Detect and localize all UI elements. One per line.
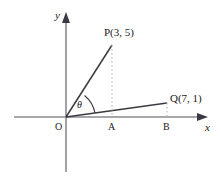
x-axis-arrowhead bbox=[197, 113, 208, 121]
segment-op bbox=[66, 45, 112, 117]
point-label-p: P(3, 5) bbox=[104, 27, 134, 38]
y-axis-label: y bbox=[55, 10, 60, 21]
x-axis bbox=[14, 113, 208, 121]
origin-label: O bbox=[55, 122, 62, 132]
angle-arc-theta bbox=[85, 96, 96, 114]
point-label-q: Q(7, 1) bbox=[170, 93, 202, 104]
y-axis-arrowhead bbox=[62, 12, 70, 23]
coordinate-diagram: y x O P(3, 5) Q(7, 1) A B θ bbox=[0, 0, 221, 177]
tick-label-b: B bbox=[163, 122, 170, 132]
angle-label-theta: θ bbox=[77, 100, 82, 110]
x-axis-label: x bbox=[205, 122, 210, 133]
tick-label-a: A bbox=[108, 122, 115, 132]
y-axis bbox=[62, 12, 70, 172]
